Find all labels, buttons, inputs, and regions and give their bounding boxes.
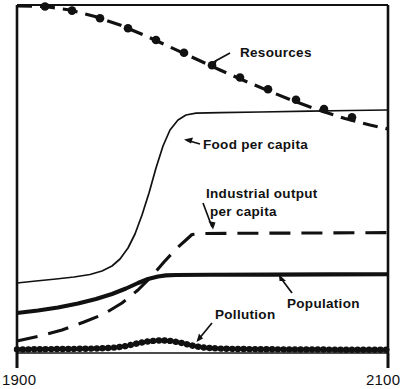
x-axis-end-label: 2100 xyxy=(366,371,400,388)
resources-marker xyxy=(152,36,161,45)
label-industrial-output-line1: Industrial output xyxy=(206,186,318,201)
label-food-per-capita: Food per capita xyxy=(203,137,308,152)
resources-marker xyxy=(96,14,105,23)
label-population: Population xyxy=(287,296,360,311)
world-model-standard-run-chart: Resources Food per capita Industrial out… xyxy=(0,0,402,389)
label-pollution: Pollution xyxy=(215,307,275,322)
resources-marker xyxy=(348,113,357,122)
resources-marker xyxy=(124,24,133,33)
label-resources: Resources xyxy=(240,45,312,60)
resources-marker xyxy=(236,73,245,82)
resources-marker xyxy=(68,6,77,15)
x-axis-start-label: 1900 xyxy=(2,371,36,388)
resources-marker xyxy=(41,2,50,11)
resources-marker xyxy=(292,96,301,105)
chart-root: Resources Food per capita Industrial out… xyxy=(0,0,402,389)
resources-marker xyxy=(320,105,329,114)
resources-marker xyxy=(264,85,273,94)
resources-marker xyxy=(180,48,189,57)
label-industrial-output-line2: per capita xyxy=(210,204,277,219)
